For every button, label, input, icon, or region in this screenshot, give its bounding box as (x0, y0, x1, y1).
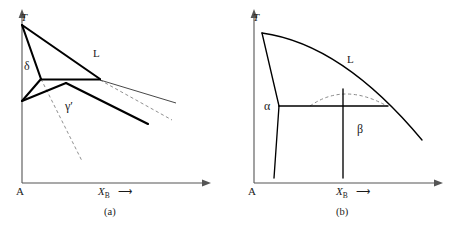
panel-a-label-liquid: L (93, 48, 100, 59)
panel-b-alpha-solvus (274, 106, 279, 178)
panel-b-alpha-solidus (262, 33, 279, 106)
panel-a-thin-lines (100, 80, 176, 103)
figure-canvas: T A XB ⟶ L δ γ′ (a) (0, 0, 464, 232)
panel-a-x-axis-arrow: ⟶ (118, 187, 132, 197)
panel-a-axes (19, 9, 211, 186)
panel-b-x-axis-symbol: X (336, 185, 343, 197)
panel-b-label-liquid: L (347, 54, 354, 65)
x-axis-arrowhead-b (434, 180, 443, 187)
panel-b-x-axis-subscript: B (343, 191, 348, 200)
x-axis-arrowhead-a (202, 180, 211, 187)
panel-b-x-axis-label: XB ⟶ (336, 186, 370, 200)
panel-a-x-axis-label: XB ⟶ (98, 186, 132, 200)
panel-b-x-axis-arrow: ⟶ (356, 187, 370, 197)
panel-a-x-axis-symbol: X (98, 185, 105, 197)
panel-b-origin-label: A (248, 186, 256, 197)
panel-b-label-alpha: α (264, 100, 270, 112)
panel-a-label-delta: δ (24, 60, 30, 72)
panel-a-dashed-lines (41, 79, 172, 161)
panel-a-x-axis-subscript: B (105, 191, 110, 200)
panel-b-label-beta: β (357, 123, 363, 135)
panel-a-caption: (a) (104, 207, 116, 218)
panel-a-solid-lines (22, 25, 148, 124)
panel-b-solid-lines (262, 33, 422, 178)
panel-b-y-axis-label: T (253, 12, 259, 23)
panel-b-axes (251, 9, 443, 186)
panel-b-liquidus-curve (262, 33, 422, 140)
panel-b-dashed-arc (310, 94, 387, 106)
panel-b-caption: (b) (336, 207, 348, 218)
panel-a-y-axis-label: T (21, 12, 27, 23)
panel-a-label-gamma-prime: γ′ (65, 100, 73, 112)
panel-a-origin-label: A (16, 186, 24, 197)
